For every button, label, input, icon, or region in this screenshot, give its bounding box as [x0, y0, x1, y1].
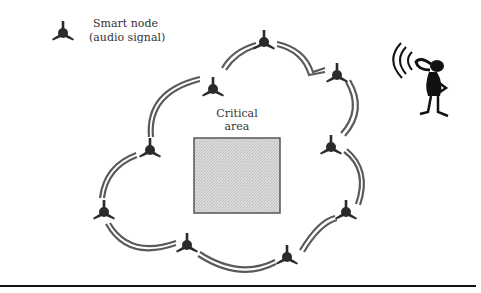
critical-area-label-line1: Critical — [216, 107, 258, 120]
smart-node-icon — [335, 200, 357, 220]
link — [200, 252, 275, 267]
diagram-canvas: Smart node (audio signal) — [0, 0, 481, 293]
smart-node-icon — [139, 138, 161, 158]
link — [110, 223, 176, 246]
link — [153, 81, 200, 137]
link — [341, 82, 353, 133]
link — [104, 157, 137, 198]
smart-node-icon — [276, 245, 298, 265]
listener — [393, 43, 448, 116]
link — [277, 42, 325, 72]
critical-area-label-line2: area — [225, 120, 250, 133]
critical-area: Critical area — [194, 107, 280, 213]
person-listening-icon — [416, 59, 448, 116]
smart-node-icon — [93, 200, 115, 220]
legend: Smart node (audio signal) — [52, 17, 165, 44]
link — [345, 80, 358, 136]
sound-waves-icon — [393, 43, 412, 78]
smart-node-icon — [176, 233, 198, 253]
smart-node-icon — [326, 63, 348, 83]
smart-node-icon — [320, 135, 342, 155]
diagram: Smart node (audio signal) — [0, 0, 481, 293]
critical-area-box — [194, 138, 280, 213]
legend-label-line1: Smart node — [93, 17, 158, 30]
legend-label-line2: (audio signal) — [89, 31, 165, 44]
smart-node-icon — [202, 77, 224, 97]
smart-node-icon — [52, 21, 74, 41]
link — [149, 77, 200, 137]
smart-node-icon — [253, 30, 275, 50]
